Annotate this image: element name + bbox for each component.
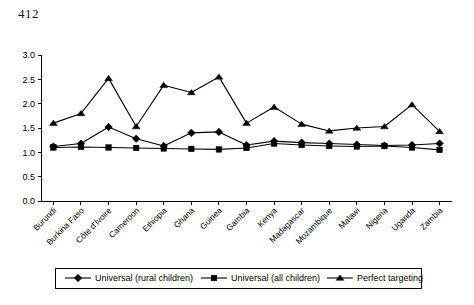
- y-tick-label: 1.0: [22, 148, 35, 158]
- y-tick-label: 2.0: [22, 99, 35, 109]
- data-point-marker: [216, 147, 222, 153]
- x-tick-label: Nigeria: [364, 205, 390, 231]
- y-tick-label: 0.5: [22, 172, 35, 182]
- y-tick-label: 1.5: [22, 123, 35, 133]
- data-point-marker: [354, 144, 360, 150]
- figure-line-chart: 0.00.51.01.52.02.53.0 BurundiBurkina Fas…: [0, 28, 474, 305]
- x-axis: BurundiBurkina FasoCôte d'IvoireCameroon…: [31, 201, 452, 247]
- data-point-marker: [78, 144, 84, 150]
- data-point-marker: [132, 124, 140, 129]
- data-point-marker: [408, 102, 416, 107]
- data-point-marker: [105, 123, 113, 131]
- legend-label: Universal (all children): [231, 273, 320, 283]
- data-point-marker: [437, 147, 443, 153]
- legend-label: Universal (rural children): [95, 273, 193, 283]
- y-tick-label: 0.0: [22, 196, 35, 206]
- x-tick-label: Guinea: [198, 205, 224, 231]
- legend-marker-square: [211, 275, 217, 281]
- data-point-marker: [77, 110, 85, 115]
- data-point-marker: [105, 75, 113, 80]
- y-tick-label: 3.0: [22, 50, 35, 60]
- x-tick-label: Ethiopia: [140, 205, 169, 234]
- data-point-marker: [133, 145, 139, 151]
- x-tick-label: Kenya: [255, 205, 279, 229]
- data-point-marker: [161, 146, 167, 152]
- data-point-marker: [299, 142, 305, 148]
- data-point-marker: [326, 143, 332, 149]
- y-tick-label: 2.5: [22, 75, 35, 85]
- x-tick-label: Malawi: [336, 205, 361, 230]
- x-tick-label: Uganda: [389, 205, 417, 233]
- data-point-marker: [106, 145, 112, 151]
- data-point-marker: [436, 140, 444, 148]
- x-tick-label: Cameroon: [107, 205, 142, 240]
- x-tick-label: Gambia: [224, 205, 252, 233]
- document-page: 412 0.00.51.01.52.02.53.0 BurundiBurkina…: [0, 0, 474, 305]
- data-point-marker: [382, 143, 388, 149]
- data-point-marker: [215, 128, 223, 136]
- data-point-marker: [51, 145, 57, 151]
- data-point-marker: [132, 135, 140, 143]
- x-tick-label: Ghana: [172, 205, 197, 230]
- legend-label: Perfect targeting: [357, 273, 423, 283]
- chart-canvas: 0.00.51.01.52.02.53.0 BurundiBurkina Fas…: [0, 28, 474, 305]
- data-point-marker: [271, 141, 277, 147]
- data-point-marker: [188, 129, 196, 137]
- data-point-marker: [50, 120, 58, 125]
- series-layer: [50, 74, 444, 153]
- data-point-marker: [270, 104, 278, 109]
- page-number: 412: [18, 6, 39, 22]
- y-axis: 0.00.51.01.52.02.53.0: [22, 50, 41, 206]
- chart-legend: Universal (rural children)Universal (all…: [55, 268, 423, 288]
- x-tick-label: Zambia: [418, 205, 445, 232]
- data-point-marker: [160, 82, 168, 87]
- data-point-marker: [244, 145, 250, 151]
- data-point-marker: [215, 74, 223, 79]
- data-point-marker: [189, 146, 195, 152]
- data-point-marker: [409, 145, 415, 151]
